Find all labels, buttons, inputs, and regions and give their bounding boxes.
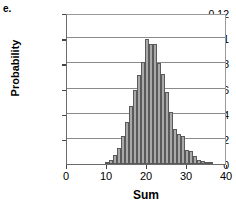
bar [209, 162, 213, 164]
y-axis-title: Probability [9, 23, 21, 113]
histogram-figure: e. Probability Sum 00.020.040.060.080.10… [0, 0, 236, 205]
x-tick [146, 165, 147, 169]
x-tick [226, 165, 227, 169]
x-tick-label: 30 [171, 170, 201, 182]
x-axis-title: Sum [66, 188, 226, 202]
x-tick-label: 20 [131, 170, 161, 182]
panel-letter: e. [3, 3, 11, 14]
x-tick-label: 40 [211, 170, 236, 182]
x-tick [66, 165, 67, 169]
x-tick-label: 10 [91, 170, 121, 182]
plot-area [66, 14, 226, 165]
x-tick [106, 165, 107, 169]
x-tick-label: 0 [51, 170, 81, 182]
bar-series [67, 15, 225, 164]
x-tick [186, 165, 187, 169]
